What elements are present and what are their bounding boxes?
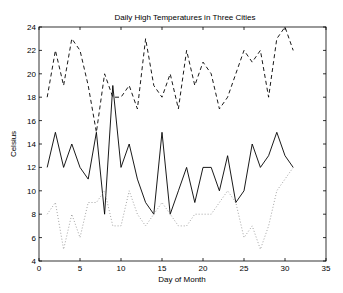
y-tick-label: 10 — [27, 187, 36, 196]
series-lines — [47, 27, 293, 249]
y-tick-label: 8 — [32, 210, 37, 219]
x-tick-label: 15 — [158, 264, 167, 273]
y-tick-label: 20 — [27, 70, 36, 79]
y-tick-label: 16 — [27, 117, 36, 126]
y-tick-label: 6 — [32, 234, 37, 243]
y-tick-label: 12 — [27, 163, 36, 172]
series-line — [47, 27, 293, 132]
plot-area — [39, 27, 326, 261]
x-tick-label: 25 — [240, 264, 249, 273]
x-tick-label: 10 — [117, 264, 126, 273]
x-axis: 05101520253035 — [37, 27, 331, 273]
x-axis-label: Day of Month — [158, 275, 206, 284]
y-axis-label: Celsius — [9, 131, 18, 157]
series-line — [47, 167, 293, 249]
y-tick-label: 24 — [27, 23, 36, 32]
x-tick-label: 5 — [78, 264, 83, 273]
y-tick-label: 22 — [27, 46, 36, 55]
y-tick-label: 14 — [27, 140, 36, 149]
x-tick-label: 0 — [37, 264, 42, 273]
x-tick-label: 35 — [322, 264, 331, 273]
line-chart: Daily High Temperatures in Three Cities … — [0, 0, 343, 293]
series-line — [47, 86, 293, 215]
y-tick-label: 4 — [32, 257, 37, 266]
chart-title: Daily High Temperatures in Three Cities — [114, 13, 255, 22]
x-tick-label: 30 — [281, 264, 290, 273]
x-tick-label: 20 — [199, 264, 208, 273]
y-tick-label: 18 — [27, 93, 36, 102]
